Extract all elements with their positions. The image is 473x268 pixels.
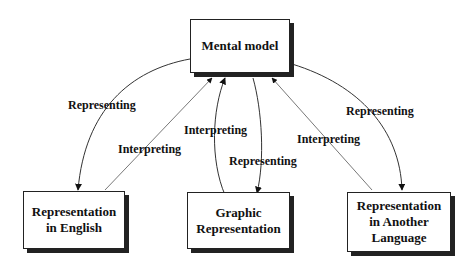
node-representation-english: Representation in English	[23, 191, 125, 249]
label-representing-another: Representing	[346, 104, 414, 119]
node-graphic-label: Graphic Representation	[194, 205, 284, 237]
node-english-label: Representation in English	[29, 204, 119, 236]
arrow-representing-graphic	[253, 78, 262, 193]
label-interpreting-another: Interpreting	[297, 132, 360, 147]
arrow-representing-another	[292, 64, 402, 190]
node-representation-another-language: Representation in Another Language	[347, 192, 451, 252]
node-mental-model: Mental model	[190, 19, 290, 73]
node-graphic-representation: Graphic Representation	[187, 192, 290, 249]
arrow-representing-english	[78, 59, 190, 190]
label-representing-graphic: Representing	[229, 154, 297, 169]
label-interpreting-graphic: Interpreting	[184, 123, 247, 138]
label-representing-english: Representing	[68, 98, 136, 113]
node-mental-model-label: Mental model	[202, 38, 279, 54]
node-another-label: Representation in Another Language	[353, 198, 445, 246]
label-interpreting-english: Interpreting	[118, 142, 181, 157]
